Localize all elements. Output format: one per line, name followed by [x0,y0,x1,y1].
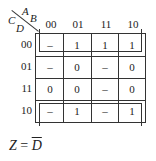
cell-r11-c01: 0 [63,78,91,100]
result-expression: Z = D [9,138,42,154]
grouping-loop-row-00 [39,29,142,52]
var-d-label: D [16,22,24,34]
cell-r01-c11: – [91,56,119,78]
cell-r11-c11: – [91,78,119,100]
cell-r11-c10: 0 [118,78,146,100]
row-header-01: 01 [12,60,32,72]
result-rhs-negated: D [32,138,42,153]
row-header-00: 00 [12,38,32,50]
row-header-10: 10 [12,104,32,116]
row-header-11: 11 [12,82,32,94]
cell-r11-c00: 0 [36,78,64,100]
result-lhs: Z [9,138,17,153]
cell-r01-c10: 0 [118,56,146,78]
var-a-label: A [22,5,29,17]
var-b-label: B [30,12,37,24]
grouping-loop-row-10 [39,103,142,126]
result-equals: = [20,138,28,153]
var-c-label: C [8,14,15,26]
cell-r01-c01: 0 [63,56,91,78]
cell-r01-c00: – [36,56,64,78]
